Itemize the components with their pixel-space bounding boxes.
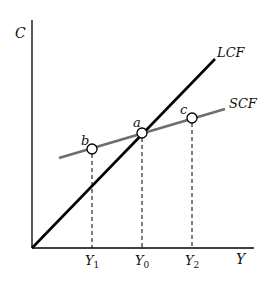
tick-y2: Y2 xyxy=(185,253,199,270)
point-a-label: a xyxy=(133,115,141,130)
x-axis-label: Y xyxy=(236,251,247,267)
scf-label: SCF xyxy=(229,96,258,111)
point-c xyxy=(187,113,197,123)
point-c-label: c xyxy=(180,102,188,117)
tick-y1: Y1 xyxy=(85,253,99,270)
tick-y0: Y0 xyxy=(135,253,150,270)
lcf-line xyxy=(32,59,215,248)
y-axis-label: C xyxy=(15,25,26,41)
point-b-label: b xyxy=(81,133,89,148)
consumption-function-diagram: C Y LCF SCF b a c Y1 Y0 Y2 xyxy=(0,0,271,285)
lcf-label: LCF xyxy=(216,45,246,60)
